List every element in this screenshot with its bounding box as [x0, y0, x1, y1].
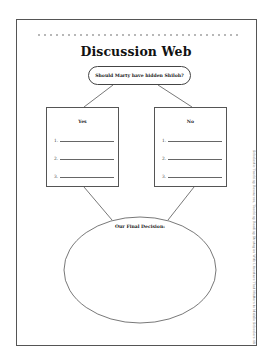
decision-oval[interactable] — [64, 217, 216, 323]
no-line-2[interactable]: 2. — [162, 155, 222, 161]
answer-rule[interactable] — [168, 141, 222, 142]
no-line-3[interactable]: 3. — [162, 173, 222, 179]
answer-rule[interactable] — [168, 159, 222, 160]
answer-rule[interactable] — [60, 159, 114, 160]
yes-box: Yes 1. 2. 3. — [46, 107, 119, 187]
connector-yes-decision — [84, 187, 112, 220]
yes-line-2[interactable]: 2. — [54, 155, 114, 161]
no-box: No 1. 2. 3. — [154, 107, 227, 187]
yes-heading: Yes — [47, 119, 118, 124]
side-credit-text: Scholastic Teaching Resources, Teaching … — [252, 150, 256, 333]
answer-rule[interactable] — [168, 177, 222, 178]
question-bubble: Should Marty have hidden Shiloh? — [88, 66, 191, 85]
decision-label: Our Final Decision: — [0, 224, 272, 229]
no-line-1[interactable]: 1. — [162, 137, 222, 143]
yes-line-1[interactable]: 1. — [54, 137, 114, 143]
connector-question-yes — [84, 85, 113, 107]
question-text: Should Marty have hidden Shiloh? — [95, 73, 184, 78]
connector-no-decision — [168, 187, 194, 220]
yes-line-3[interactable]: 3. — [54, 173, 114, 179]
answer-rule[interactable] — [60, 177, 114, 178]
answer-rule[interactable] — [60, 141, 114, 142]
connector-lines — [0, 0, 272, 361]
connector-question-no — [158, 85, 192, 107]
no-heading: No — [155, 119, 226, 124]
